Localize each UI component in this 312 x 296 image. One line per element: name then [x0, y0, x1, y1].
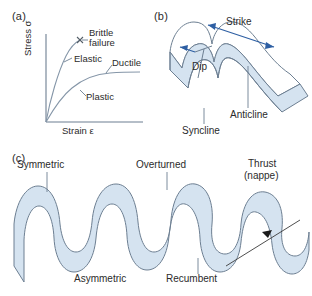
panel-b-fold-block: (b) — [150, 0, 312, 148]
recumbent-label: Recumbent — [166, 274, 217, 285]
dip-label: Dip — [192, 62, 207, 73]
thrust-label-line1: Thrust — [248, 159, 276, 170]
brittle-failure-label-line2: failure — [89, 38, 115, 49]
panel-c-fold-types: (c) Symmetric Overturned Thrust (nappe) … — [0, 146, 312, 296]
overturned-label: Overturned — [136, 160, 186, 171]
elastic-label: Elastic — [74, 54, 102, 65]
x-axis-label: Strain ε — [62, 126, 94, 137]
ductile-label: Ductile — [112, 58, 141, 69]
symmetric-label: Symmetric — [17, 160, 64, 171]
plastic-label: Plastic — [86, 92, 114, 103]
figure-geological-deformation: (a) Stress σ Strain ε Brittle failure — [0, 0, 312, 296]
panel-b-label: (b) — [154, 10, 168, 22]
thrust-label-line2: (nappe) — [244, 171, 278, 182]
asymmetric-label: Asymmetric — [74, 274, 126, 285]
anticline-label: Anticline — [230, 110, 268, 121]
panel-a-stress-strain: (a) Stress σ Strain ε Brittle failure — [0, 0, 156, 148]
syncline-label: Syncline — [182, 126, 220, 137]
strike-label: Strike — [226, 17, 252, 28]
y-axis-label: Stress σ — [23, 21, 34, 56]
